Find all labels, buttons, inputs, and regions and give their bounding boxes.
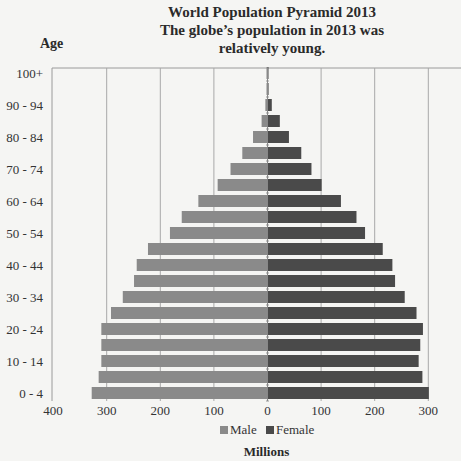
bar-male [242, 147, 267, 159]
bar-female [268, 307, 417, 319]
bar-female [268, 323, 423, 335]
bar-female [268, 163, 312, 175]
bar-female [268, 227, 366, 239]
bar-female [268, 211, 357, 223]
x-axis-title: Millions [0, 444, 461, 460]
bar-female [268, 179, 322, 191]
bar-female [268, 355, 419, 367]
legend-male-label: Male [230, 422, 257, 437]
bar-female [268, 131, 289, 143]
bar-male [198, 195, 267, 207]
x-tick-label: 100 [204, 403, 224, 418]
x-tick-label: 300 [97, 403, 117, 418]
bar-male [92, 387, 268, 399]
bar-female [268, 99, 272, 111]
bar-female [268, 339, 421, 351]
bar-female [268, 291, 405, 303]
bar-male [231, 163, 268, 175]
y-tick-label: 20 - 24 [6, 322, 43, 337]
bar-male [111, 307, 268, 319]
y-tick-label: 60 - 64 [6, 194, 43, 209]
bar-male [148, 243, 268, 255]
bar-male [123, 291, 268, 303]
bar-female [268, 115, 280, 127]
population-pyramid-chart: 0 - 410 - 1420 - 2430 - 3440 - 4450 - 54… [0, 0, 461, 461]
y-tick-label: 70 - 74 [6, 162, 43, 177]
bar-male [253, 131, 267, 143]
y-tick-label: 10 - 14 [6, 354, 43, 369]
y-tick-label: 50 - 54 [6, 226, 43, 241]
bar-female [268, 147, 302, 159]
bar-male [101, 339, 267, 351]
legend-female-label: Female [276, 422, 314, 437]
bar-male [101, 323, 267, 335]
bar-female [268, 195, 341, 207]
y-tick-label: 90 - 94 [6, 98, 43, 113]
bar-female [268, 371, 423, 383]
x-tick-label: 200 [365, 403, 385, 418]
x-axis-labels: 4003002001000100200300 [43, 403, 438, 418]
bar-male [137, 259, 268, 271]
bar-female [268, 243, 383, 255]
bar-male [99, 371, 268, 383]
y-tick-label: 100+ [16, 66, 43, 81]
x-tick-label: 300 [419, 403, 439, 418]
bar-male [101, 355, 267, 367]
bar-male [262, 115, 268, 127]
bar-male [170, 227, 268, 239]
bar-male [218, 179, 268, 191]
bar-male [134, 275, 267, 287]
y-tick-label: 30 - 34 [6, 290, 43, 305]
legend-male-swatch [220, 426, 228, 434]
bars [92, 67, 429, 401]
bar-female [268, 387, 429, 399]
x-tick-label: 100 [311, 403, 331, 418]
bar-female [268, 259, 393, 271]
y-tick-label: 40 - 44 [6, 258, 43, 273]
y-tick-label: 0 - 4 [19, 386, 43, 401]
legend: Male Female [220, 422, 314, 437]
y-axis-labels: 0 - 410 - 1420 - 2430 - 3440 - 4450 - 54… [6, 66, 43, 401]
bar-male [182, 211, 268, 223]
x-tick-label: 0 [264, 403, 271, 418]
y-tick-label: 80 - 84 [6, 130, 43, 145]
legend-female-swatch [266, 426, 274, 434]
bar-female [268, 275, 396, 287]
x-tick-label: 400 [43, 403, 63, 418]
x-tick-label: 200 [151, 403, 171, 418]
